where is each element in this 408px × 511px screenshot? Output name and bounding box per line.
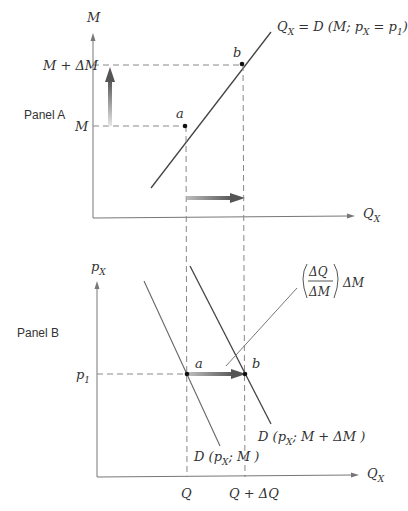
panel-b-x-tick-high: Q + ΔQ	[229, 487, 279, 500]
panel-a-curve-label: QX = D (M; pX = p1)	[277, 20, 408, 33]
panel-a-point-b-label: b	[233, 46, 241, 59]
annotation-leader	[226, 288, 297, 366]
annotation-numerator: ΔQ	[309, 265, 328, 279]
demand-curve-original-label: D (pX; M )	[194, 450, 259, 463]
panel-a-y-tick-high: M + ΔM	[43, 59, 98, 72]
panel-b-point-b-label: b	[252, 357, 260, 370]
annotation-suffix: ΔM	[343, 276, 364, 290]
demand-curve-original	[144, 281, 220, 446]
panel-b-point-a-label: a	[195, 357, 203, 370]
panel-a-engel-curve	[151, 32, 271, 188]
panel-b-axes	[95, 281, 360, 478]
annotation-denominator: ΔM	[309, 285, 330, 299]
panel-b-x-tick-low: Q	[181, 487, 192, 500]
panel-b-point-a	[185, 372, 190, 377]
income-increase-arrow	[105, 67, 115, 126]
panel-b-x-axis-label: QX	[367, 467, 384, 480]
panel-a-axes	[91, 33, 356, 219]
panel-b-title: Panel B	[17, 326, 59, 340]
panel-a-x-axis-label: QX	[363, 207, 380, 220]
demand-curve-shifted-label: D (pX; M + ΔM )	[258, 430, 365, 443]
panel-a-quantity-arrow	[187, 193, 245, 203]
panel-a-guides	[93, 65, 242, 126]
panel-a-title: Panel A	[24, 108, 65, 122]
vertical-guides	[186, 65, 245, 477]
panel-b-y-axis-label: pX	[91, 260, 106, 273]
panel-a-point-b	[240, 62, 245, 67]
panel-a-y-tick-low: M	[75, 120, 88, 133]
panel-a-point-a	[183, 124, 188, 129]
panel-a-y-axis-label: M	[87, 11, 100, 24]
demand-curve-shifted	[190, 266, 271, 424]
panel-a-point-a-label: a	[176, 107, 184, 120]
panel-b-point-b	[243, 372, 248, 377]
panel-b-y-tick: p1	[76, 368, 90, 381]
